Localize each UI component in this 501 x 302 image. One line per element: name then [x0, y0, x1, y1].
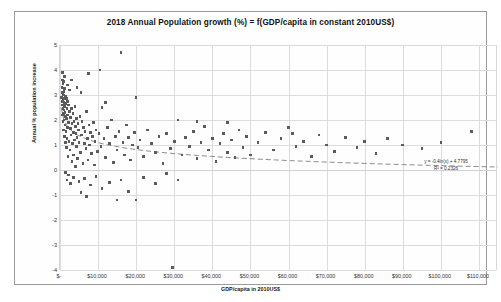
y-tick-label: 4 — [35, 67, 57, 73]
scatter-point — [61, 71, 64, 74]
scatter-point — [386, 137, 389, 140]
trendline-r-squared: R² = 0.2326 — [406, 166, 486, 173]
scatter-point — [101, 187, 104, 190]
scatter-point — [89, 131, 92, 134]
scatter-point — [142, 155, 145, 158]
x-tick-label: $110,000 — [467, 273, 489, 279]
scatter-point — [63, 90, 66, 93]
scatter-point — [171, 266, 174, 269]
scatter-point — [257, 141, 260, 144]
x-tick-label: $10,000 — [87, 273, 107, 279]
x-axis-label: GDP/capita in 2010US$ — [15, 286, 486, 292]
scatter-point — [96, 150, 99, 153]
scatter-point — [230, 139, 233, 142]
scatter-point — [226, 121, 229, 124]
scatter-point — [79, 151, 82, 154]
scatter-point — [196, 157, 199, 160]
scatter-point — [79, 115, 82, 118]
scatter-point — [75, 117, 78, 120]
scatter-point — [85, 110, 88, 113]
scatter-point — [302, 140, 305, 143]
scatter-point — [108, 142, 111, 145]
scatter-point — [238, 129, 241, 132]
scatter-point — [234, 156, 237, 159]
scatter-point — [219, 142, 222, 145]
trendline-equation-label: y = -0.4ln(x) + 4.7795 R² = 0.2326 — [406, 159, 486, 172]
y-tick-label: 5 — [35, 42, 57, 48]
scatter-point — [82, 126, 85, 129]
chart-title: 2018 Annual Population growth (%) = f(GD… — [15, 18, 486, 27]
scatter-point — [421, 147, 424, 150]
scatter-point — [70, 134, 73, 137]
x-tick-label: $80,000 — [354, 273, 374, 279]
scatter-point — [81, 120, 84, 123]
x-axis-tick-labels: $-$10,000$20,000$30,000$40,000$50,000$60… — [59, 273, 497, 285]
scatter-point — [83, 177, 86, 180]
scatter-point — [78, 180, 81, 183]
scatter-point — [67, 104, 70, 107]
scatter-point — [173, 140, 176, 143]
y-tick-label: 2 — [35, 117, 57, 123]
scatter-point — [85, 147, 88, 150]
scatter-point — [116, 149, 119, 152]
scatter-point — [67, 121, 70, 124]
scatter-point — [74, 125, 77, 128]
scatter-point — [249, 154, 252, 157]
scatter-points — [60, 45, 496, 270]
scatter-point — [131, 144, 134, 147]
scatter-point — [69, 116, 72, 119]
scatter-point — [92, 121, 95, 124]
scatter-point — [295, 145, 298, 148]
scatter-point — [67, 174, 70, 177]
x-tick-label: $30,000 — [164, 273, 184, 279]
scatter-point — [71, 122, 74, 125]
scatter-point — [80, 91, 83, 94]
scatter-point — [78, 141, 81, 144]
scatter-point — [177, 119, 180, 122]
scatter-point — [72, 154, 75, 157]
scatter-point — [75, 132, 78, 135]
scatter-point — [100, 145, 103, 148]
scatter-point — [69, 182, 72, 185]
scatter-point — [108, 181, 111, 184]
x-tick-label: $60,000 — [278, 273, 298, 279]
scatter-point — [70, 107, 73, 110]
scatter-point — [65, 130, 68, 133]
scatter-point — [76, 86, 79, 89]
x-tick-label: $70,000 — [316, 273, 336, 279]
scatter-point — [150, 142, 153, 145]
scatter-point — [162, 162, 165, 165]
scatter-point — [192, 130, 195, 133]
scatter-point — [118, 130, 121, 133]
scatter-point — [76, 157, 79, 160]
scatter-point — [88, 144, 91, 147]
x-tick-label: $50,000 — [240, 273, 260, 279]
scatter-point — [207, 149, 210, 152]
scatter-point — [104, 156, 107, 159]
scatter-point — [80, 134, 83, 137]
y-tick-label: 0 — [35, 167, 57, 173]
scatter-point — [188, 145, 191, 148]
scatter-point — [222, 132, 225, 135]
plot-area — [59, 45, 497, 270]
scatter-point — [196, 120, 199, 123]
scatter-point — [287, 126, 290, 129]
scatter-point — [356, 146, 359, 149]
scatter-point — [110, 119, 113, 122]
scatter-point — [73, 120, 76, 123]
scatter-point — [104, 101, 107, 104]
scatter-point — [66, 179, 69, 182]
scatter-point — [203, 125, 206, 128]
scatter-point — [66, 100, 69, 103]
y-tick-label: -1 — [35, 192, 57, 198]
scatter-point — [82, 162, 85, 165]
scatter-point — [165, 132, 168, 135]
scatter-point — [158, 135, 161, 138]
scatter-point — [169, 147, 172, 150]
scatter-point — [154, 182, 157, 185]
scatter-point — [90, 152, 93, 155]
x-tick-label: $- — [57, 273, 62, 279]
y-tick-label: -2 — [35, 217, 57, 223]
scatter-point — [120, 179, 123, 182]
y-tick-label: -3 — [35, 242, 57, 248]
